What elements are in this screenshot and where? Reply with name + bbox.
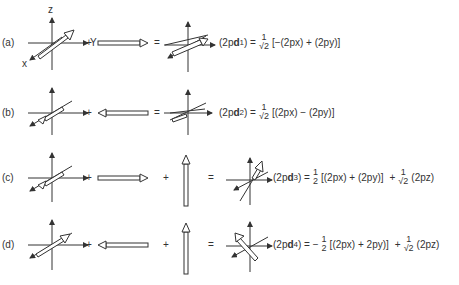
px-arrow-left-d	[98, 241, 148, 249]
coef-den: 2	[313, 177, 318, 186]
coefficient: 12	[313, 168, 318, 186]
equals-c: =	[208, 172, 214, 183]
eq-lhs: (2p	[219, 37, 233, 48]
eq-lhs: (2p	[219, 107, 233, 118]
axes-c-result	[226, 158, 272, 205]
eq-expr: (2pz)	[417, 239, 440, 250]
coefficient: 12	[322, 235, 327, 253]
axes-d-result	[226, 222, 272, 272]
coef-den: √2	[398, 177, 408, 186]
pz-arrow-up-c	[182, 155, 190, 206]
orbital-arrow-a-result	[172, 38, 208, 56]
equals-d: =	[208, 239, 214, 250]
pz-arrow-up-d	[182, 223, 190, 274]
axis-label-x: x	[22, 58, 27, 69]
orbital-arrow-d-result	[235, 233, 258, 261]
coefficient: 1√2	[398, 168, 408, 186]
coef-den: √2	[404, 244, 414, 253]
plus-d-1: +	[86, 239, 92, 250]
eq-lhs: (2p	[273, 172, 287, 183]
eq-sign: ) =	[244, 107, 256, 118]
px-arrow-right-c	[98, 174, 148, 182]
eq-sign: ) =	[244, 37, 256, 48]
plus-c-1: +	[86, 172, 92, 183]
row-label-a: (a)	[2, 37, 14, 48]
coefficient: 1√2	[259, 33, 269, 51]
axis-label-z: z	[48, 4, 53, 15]
plus-c-2: +	[163, 172, 169, 183]
eq-expr: [−(2px) + (2py)]	[272, 37, 340, 48]
row-label-b: (b)	[2, 107, 14, 118]
row-label-c: (c)	[2, 172, 14, 183]
plus-d-2: +	[163, 239, 169, 250]
eq-sign: ) = −	[298, 239, 319, 250]
px-arrow-left-b	[98, 109, 148, 117]
equation-d: (2pd4) = − 12 [(2px) + 2py)] + 1√2 (2pz)	[273, 235, 439, 253]
eq-expr: [(2px) − (2py)]	[272, 107, 335, 118]
eq-lhs: (2p	[273, 239, 287, 250]
plus-a: +	[86, 37, 92, 48]
coefficient: 1√2	[404, 235, 414, 253]
coef-den: √2	[259, 112, 269, 121]
coef-den: 2	[322, 244, 327, 253]
equals-a: =	[154, 37, 160, 48]
coef-den: √2	[259, 42, 269, 51]
equation-b: (2pd2) = 1√2 [(2px) − (2py)]	[219, 103, 334, 121]
axes-b-result	[164, 90, 212, 135]
equals-b: =	[154, 107, 160, 118]
eq-plus: +	[395, 239, 401, 250]
eq-expr: (2pz)	[411, 172, 434, 183]
row-label-d: (d)	[2, 239, 14, 250]
equation-a: (2pd1) = 1√2 [−(2px) + (2py)]	[219, 33, 340, 51]
coefficient: 1√2	[259, 103, 269, 121]
eq-plus: +	[390, 172, 396, 183]
plus-b: +	[86, 107, 92, 118]
orbital-arrow-b-left	[38, 107, 64, 124]
equation-c: (2pd3) = 12 [(2px) + (2py)] + 1√2 (2pz)	[273, 168, 434, 186]
eq-expr: [(2px) + (2py)]	[321, 172, 384, 183]
eq-sign: ) =	[298, 172, 310, 183]
eq-expr: [(2px) + 2py)]	[330, 239, 389, 250]
px-arrow-right-a	[98, 39, 148, 47]
orbital-arrow-c-left	[38, 172, 64, 189]
orbital-arrow-a-left	[38, 30, 74, 59]
